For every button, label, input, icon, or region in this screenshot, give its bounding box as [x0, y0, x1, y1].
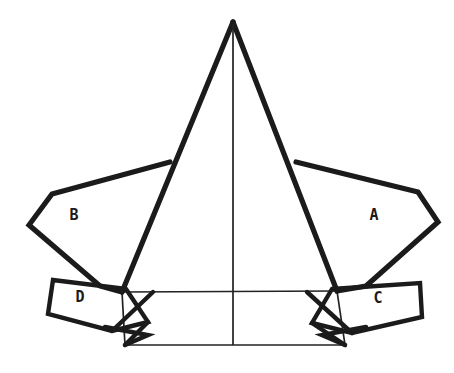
face-label-c: C [373, 289, 382, 307]
main-triangle-fill [122, 22, 337, 292]
face-label-a: A [369, 206, 378, 224]
net-diagram-svg: A B C D [0, 0, 454, 373]
face-label-d: D [75, 288, 84, 306]
face-label-b: B [69, 206, 78, 224]
net-diagram-figure: A B C D [0, 0, 454, 373]
